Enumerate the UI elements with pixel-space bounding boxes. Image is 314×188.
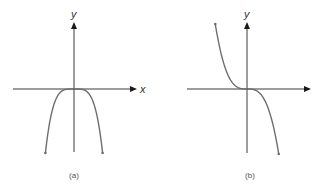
x-axis-arrow-icon — [304, 86, 311, 92]
caption-a: (a) — [69, 171, 79, 180]
curve-endpoint-left-b — [214, 23, 217, 26]
y-axis-arrow-icon — [244, 22, 250, 29]
figure: x y (a) y (b) — [0, 0, 314, 188]
caption-b: (b) — [245, 171, 255, 180]
curve-endpoint-right-b — [277, 153, 280, 156]
y-axis-label-b: y — [243, 8, 251, 20]
graph-a: x y (a) — [13, 8, 146, 180]
curve-endpoint-right-a — [101, 152, 104, 155]
y-axis-label-a: y — [70, 8, 78, 20]
y-axis-arrow-icon — [71, 22, 77, 29]
x-axis-label-a: x — [139, 83, 146, 95]
curve-endpoint-left-a — [44, 152, 47, 155]
graph-b: y (b) — [187, 8, 311, 180]
x-axis-arrow-icon — [130, 86, 137, 92]
